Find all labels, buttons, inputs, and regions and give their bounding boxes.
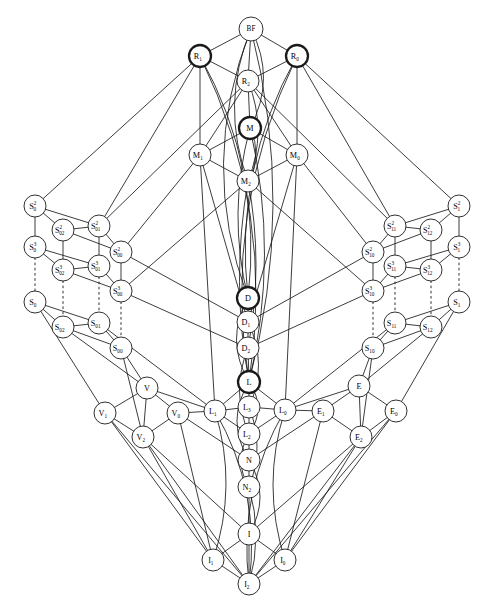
graph-node-s11[interactable]: S11 [384, 312, 406, 334]
node-label: L [246, 378, 251, 387]
graph-edge [297, 56, 459, 206]
graph-node-l[interactable]: L [238, 371, 260, 393]
graph-node-s1_2[interactable]: S21 [448, 195, 470, 217]
graph-edge [285, 437, 361, 560]
graph-node-s11_2[interactable]: S211 [384, 215, 406, 237]
graph-edge [143, 437, 249, 584]
graph-edge [121, 291, 248, 348]
graph-edge [248, 81, 395, 226]
graph-edge [285, 155, 297, 410]
graph-node-s10_3[interactable]: S310 [362, 280, 384, 302]
node-label: S20 [29, 200, 37, 212]
graph-node-r1[interactable]: R1 [189, 45, 211, 67]
graph-node-m2[interactable]: M2 [237, 170, 259, 192]
graph-edge [285, 411, 323, 560]
graph-node-s1[interactable]: S1 [448, 291, 470, 313]
graph-edge [297, 155, 373, 252]
graph-node-e[interactable]: E [348, 375, 370, 397]
graph-edge [178, 413, 213, 560]
graph-node-m0[interactable]: M0 [286, 144, 308, 166]
graph-edge [99, 56, 200, 226]
graph-node-l0[interactable]: L0 [274, 399, 296, 421]
graph-node-n[interactable]: N [238, 449, 260, 471]
graph-node-l3[interactable]: L3 [238, 396, 260, 418]
node-label: S31 [453, 241, 461, 253]
graph-edge [248, 291, 373, 348]
graph-edge [143, 437, 249, 534]
graph-node-i1[interactable]: I1 [202, 549, 224, 571]
node-layer: BFR1R0R2MM1M0M2S20S202S201S30S200S302S30… [24, 17, 470, 595]
graph-node-s1_3[interactable]: S31 [448, 236, 470, 258]
graph-node-i0[interactable]: I0 [274, 549, 296, 571]
graph-node-e2[interactable]: E2 [350, 426, 372, 448]
graph-edge [35, 56, 200, 206]
graph-node-d1[interactable]: D1 [237, 311, 259, 333]
graph-edge [297, 56, 395, 226]
graph-edge [200, 155, 215, 411]
diagram-canvas: BFR1R0R2MM1M0M2S20S202S201S30S200S302S30… [0, 0, 494, 606]
graph-node-s02_2[interactable]: S202 [52, 219, 74, 241]
graph-node-m[interactable]: M [239, 117, 261, 139]
graph-edge [249, 437, 361, 534]
node-label: S21 [453, 200, 461, 212]
node-label: D [245, 294, 251, 303]
graph-node-d[interactable]: D [237, 287, 259, 309]
graph-node-s01_2[interactable]: S201 [88, 215, 110, 237]
graph-node-i2[interactable]: I2 [238, 573, 260, 595]
graph-node-m1[interactable]: M1 [189, 144, 211, 166]
graph-edge [223, 29, 251, 298]
graph-edge [248, 181, 373, 291]
graph-node-s02[interactable]: S02 [52, 316, 74, 338]
node-label: S30 [29, 241, 37, 253]
graph-node-s00[interactable]: S00 [110, 337, 132, 359]
node-label: V [144, 384, 150, 393]
graph-node-s12_3[interactable]: S312 [420, 259, 442, 281]
graph-edge [143, 437, 213, 560]
graph-node-v[interactable]: V [136, 377, 158, 399]
graph-edge [285, 411, 396, 560]
graph-node-s0_2[interactable]: S20 [24, 195, 46, 217]
graph-node-v0[interactable]: V0 [167, 402, 189, 424]
node-label: M [246, 124, 254, 133]
graph-edge [121, 252, 248, 322]
graph-node-s00_2[interactable]: S200 [110, 241, 132, 263]
graph-node-e1[interactable]: E1 [312, 400, 334, 422]
graph-edge [105, 413, 249, 584]
graph-node-l1[interactable]: L1 [204, 400, 226, 422]
graph-node-i[interactable]: I [238, 523, 260, 545]
graph-node-bf[interactable]: BF [239, 17, 263, 41]
graph-edge [248, 252, 373, 322]
node-label: E [356, 382, 361, 391]
graph-node-s11_3[interactable]: S311 [384, 255, 406, 277]
graph-node-r0[interactable]: R0 [286, 45, 308, 67]
graph-node-d2[interactable]: D2 [237, 337, 259, 359]
graph-node-s02_3[interactable]: S302 [52, 259, 74, 281]
node-label: BF [247, 25, 256, 33]
graph-edge [213, 411, 226, 560]
graph-node-e0[interactable]: E0 [385, 400, 407, 422]
graph-node-s12_2[interactable]: S212 [420, 219, 442, 241]
graph-node-s00_3[interactable]: S300 [110, 280, 132, 302]
lattice-graph: BFR1R0R2MM1M0M2S20S202S201S30S200S302S30… [0, 0, 494, 606]
graph-node-r2[interactable]: R2 [237, 70, 259, 92]
graph-edge [121, 181, 248, 291]
graph-node-n2[interactable]: N2 [238, 476, 260, 498]
graph-node-s0[interactable]: S0 [24, 291, 46, 313]
graph-edge [273, 410, 285, 560]
graph-node-v1[interactable]: V1 [94, 402, 116, 424]
graph-node-v2[interactable]: V2 [132, 426, 154, 448]
graph-node-l2[interactable]: L2 [238, 423, 260, 445]
graph-edge [249, 437, 361, 584]
graph-node-s01[interactable]: S01 [88, 312, 110, 334]
graph-edge [99, 323, 215, 411]
graph-node-s10_2[interactable]: S210 [362, 241, 384, 263]
graph-edge [285, 323, 395, 410]
graph-node-s10[interactable]: S10 [362, 337, 384, 359]
node-label: N [246, 456, 252, 465]
graph-node-s0_3[interactable]: S30 [24, 236, 46, 258]
graph-edge [63, 327, 147, 388]
node-label: I [248, 530, 251, 539]
graph-node-s12[interactable]: S12 [420, 316, 442, 338]
graph-node-s01_3[interactable]: S301 [88, 255, 110, 277]
